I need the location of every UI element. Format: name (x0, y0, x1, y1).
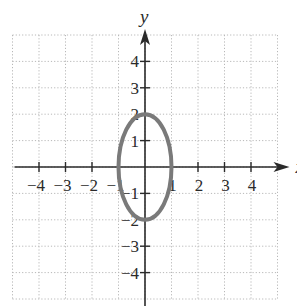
y-tick-label: 3 (131, 79, 140, 98)
y-tick-label: −4 (121, 264, 140, 283)
x-tick-label: −4 (27, 176, 46, 195)
x-tick-label: 4 (248, 176, 257, 195)
x-tick-label: −3 (53, 176, 71, 195)
ellipse-graph: −4−3−2−112344321−1−2−3−4xy (0, 0, 297, 306)
x-tick-label: 2 (195, 176, 204, 195)
y-axis-label: y (138, 6, 149, 27)
x-tick-label: −2 (80, 176, 98, 195)
y-tick-label: 4 (131, 52, 140, 71)
y-tick-label: 1 (131, 132, 140, 151)
y-tick-label: −3 (121, 237, 139, 256)
x-tick-label: 3 (221, 176, 230, 195)
x-axis-label: x (295, 156, 298, 177)
